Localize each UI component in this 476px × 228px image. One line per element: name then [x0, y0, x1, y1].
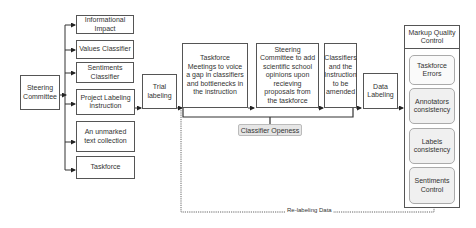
markup-quality-control-group: Markup Quality Control Taskforce Errors …	[404, 25, 460, 208]
qc-labels-consistency: Labels consistency	[409, 128, 455, 164]
classifier-openess-label: Classifier Openess	[238, 124, 302, 136]
steering-committee-node: Steering Committee	[20, 75, 60, 110]
process-data-labeling: Data Labeling	[363, 73, 398, 109]
branch-informational-impact: Informational Impact	[76, 15, 134, 34]
relabeling-data-label: Re-labeling Data	[286, 207, 333, 213]
process-taskforce-meetings: Taskforce Meetings to voice a gap in cla…	[182, 43, 248, 108]
branch-sentiments-classifier: Sentiments Classifier	[76, 62, 134, 83]
branch-unmarked-text-collection: An unmarked text collection	[76, 121, 135, 152]
process-classifiers-amended: Classifiers and the Instruction to be am…	[324, 43, 357, 108]
qc-annotators-consistency: Annotators consistency	[409, 88, 455, 124]
branch-project-labeling-instruction: Project Labeling instruction	[76, 89, 135, 115]
process-trial-labeling: Trial labeling	[142, 74, 177, 109]
branch-taskforce: Taskforce	[76, 156, 135, 179]
branch-values-classifier: Values Classifier	[76, 40, 134, 59]
process-steering-committee-opinions: Steering Committee to add scientific sch…	[256, 43, 319, 108]
qc-taskforce-errors: Taskforce Errors	[409, 55, 455, 85]
qc-sentiments-control: Sentiments Control	[409, 167, 455, 204]
quality-control-title: Markup Quality Control	[405, 26, 459, 49]
